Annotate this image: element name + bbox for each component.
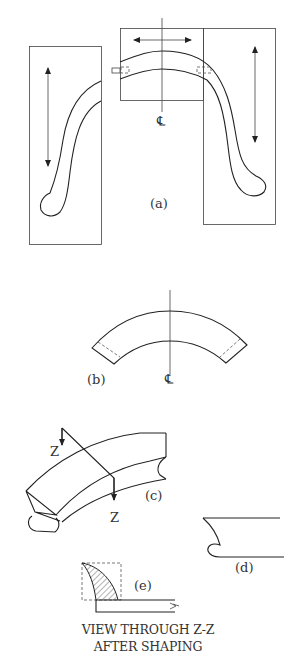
- panel-e: (e): [82, 563, 179, 612]
- hatched-section: [82, 563, 118, 600]
- panel-label-b: (b): [87, 372, 105, 387]
- right-forming-box: [204, 29, 276, 225]
- dashed-slot-left: [121, 67, 129, 73]
- panel-label-d: (d): [235, 560, 253, 575]
- break-symbol: [170, 603, 179, 609]
- arc-dashed-end-right: [220, 339, 240, 357]
- panel-a: ℄ (a): [30, 18, 276, 245]
- caption-line-1: VIEW THROUGH Z-Z: [81, 622, 215, 637]
- profile-curl: [203, 518, 284, 557]
- section-marker-z-top: Z: [50, 444, 59, 459]
- strip-center-upper: [120, 51, 266, 196]
- left-forming-box: [30, 47, 102, 245]
- connector-tab: [112, 68, 120, 73]
- panel-c: Z Z (c): [26, 428, 166, 532]
- arc-segment: [92, 311, 247, 364]
- centerline-symbol-b: ℄: [164, 371, 174, 386]
- technical-diagram: ℄ (a) ℄ (b): [0, 0, 297, 656]
- panel-d: (d): [203, 518, 284, 575]
- strip-center-lower: [120, 69, 207, 80]
- caption-line-2: AFTER SHAPING: [93, 639, 203, 654]
- panel-label-a: (a): [150, 196, 168, 211]
- dashed-slot-right: [197, 67, 211, 73]
- centerline-symbol-a: ℄: [156, 113, 166, 128]
- strip-outer-edge: [40, 81, 101, 216]
- base-strip: [96, 600, 175, 612]
- section-marker-z-bottom: Z: [110, 510, 119, 525]
- isometric-top-inner: [56, 457, 166, 515]
- panel-label-c: (c): [145, 488, 162, 503]
- panel-label-e: (e): [134, 578, 152, 593]
- panel-b: ℄ (b): [87, 290, 247, 387]
